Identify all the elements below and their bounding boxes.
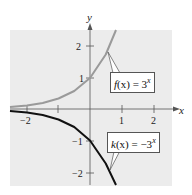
chart-svg: −2 1 2 2 1 −1 −2 x y bbox=[0, 0, 192, 195]
callout-f-exponent: x bbox=[147, 76, 151, 85]
y-tick-label: −2 bbox=[72, 168, 83, 179]
y-axis-label: y bbox=[86, 11, 92, 23]
plot-area bbox=[10, 30, 172, 186]
callout-f-body: (x) = 3 bbox=[117, 78, 147, 90]
x-tick-label: 1 bbox=[119, 115, 124, 126]
x-tick-label: −2 bbox=[20, 115, 31, 126]
callout-k-exponent: x bbox=[152, 136, 156, 145]
x-tick-label: 2 bbox=[151, 115, 156, 126]
callout-k: k(x) = −3x bbox=[107, 132, 160, 153]
x-axis-label: x bbox=[178, 104, 184, 116]
y-axis-arrow-icon bbox=[88, 23, 93, 30]
y-tick-label: −1 bbox=[72, 136, 83, 147]
callout-k-body: (x) = −3 bbox=[116, 138, 152, 150]
y-tick-label: 2 bbox=[76, 41, 81, 52]
callout-f: f(x) = 3x bbox=[110, 72, 155, 93]
